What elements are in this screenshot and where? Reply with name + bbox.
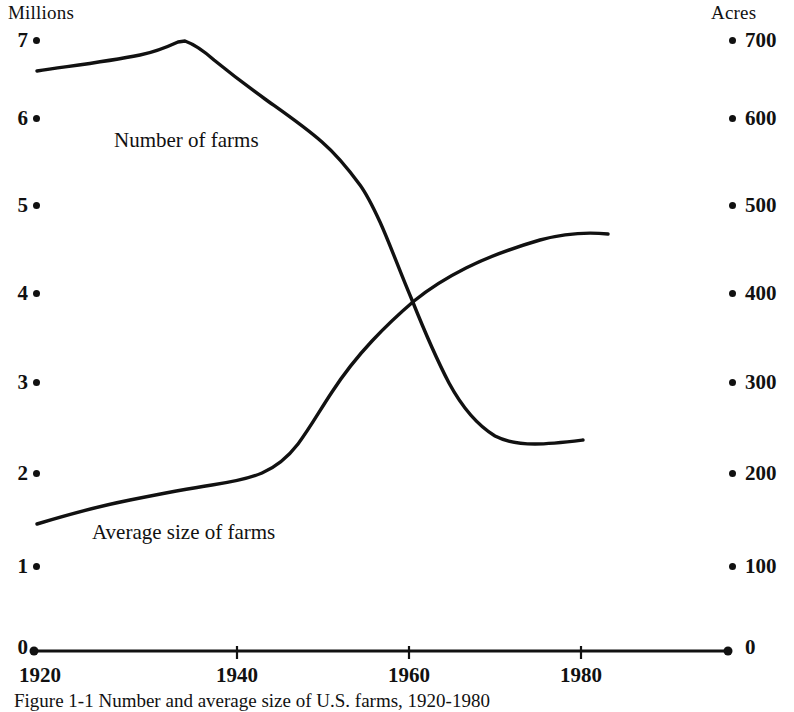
x-axis-origin-dot (30, 647, 39, 656)
left-tick-label-7: 7 (6, 30, 28, 51)
left-tick-dot-2 (33, 470, 40, 477)
right-axis-unit-label: Acres (711, 2, 756, 24)
right-tick-label-0: 0 (745, 637, 756, 658)
right-tick-label-600: 600 (745, 108, 777, 129)
left-tick-label-1: 1 (6, 556, 28, 577)
right-tick-label-300: 300 (745, 372, 777, 393)
figure-caption: Figure 1-1 Number and average size of U.… (14, 690, 490, 712)
left-tick-label-5: 5 (6, 195, 28, 216)
left-tick-dot-6 (33, 115, 40, 122)
left-tick-dot-1 (33, 563, 40, 570)
x-tick-label-1920: 1920 (19, 665, 61, 686)
left-tick-dot-3 (33, 379, 40, 386)
right-tick-dot-100 (729, 563, 736, 570)
left-tick-dot-5 (33, 202, 40, 209)
left-tick-label-4: 4 (6, 283, 28, 304)
right-tick-label-700: 700 (745, 30, 777, 51)
right-tick-label-200: 200 (745, 463, 777, 484)
right-tick-label-100: 100 (745, 556, 777, 577)
right-tick-dot-200 (729, 470, 736, 477)
right-tick-dot-300 (729, 379, 736, 386)
x-tick-label-1940: 1940 (216, 665, 258, 686)
left-axis-unit-label: Millions (8, 2, 74, 24)
curve-number-of-farms (37, 41, 583, 444)
left-tick-dot-7 (33, 37, 40, 44)
left-tick-label-3: 3 (6, 372, 28, 393)
left-tick-label-0: 0 (6, 637, 28, 658)
right-tick-dot-600 (729, 115, 736, 122)
series-label-average-size-of-farms: Average size of farms (92, 522, 275, 543)
right-tick-dot-400 (729, 290, 736, 297)
right-tick-dot-500 (729, 202, 736, 209)
left-tick-label-2: 2 (6, 463, 28, 484)
curve-average-size-of-farms (37, 233, 608, 524)
left-tick-dot-4 (33, 290, 40, 297)
right-tick-dot-700 (729, 37, 736, 44)
x-tick-label-1960: 1960 (388, 665, 430, 686)
right-tick-label-400: 400 (745, 283, 777, 304)
right-tick-label-500: 500 (745, 195, 777, 216)
x-tick-label-1980: 1980 (560, 665, 602, 686)
x-axis-end-dot (724, 647, 733, 656)
left-tick-label-6: 6 (6, 108, 28, 129)
series-label-number-of-farms: Number of farms (114, 130, 259, 151)
